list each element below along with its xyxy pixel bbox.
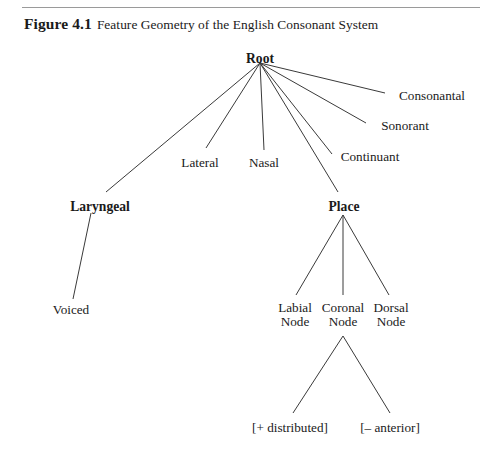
tree-node-place-line-0: Place [329, 199, 360, 214]
tree-edge-place-to-dorsal [343, 215, 389, 295]
tree-node-distributed: [+ distributed] [252, 421, 328, 435]
tree-node-labial: LabialNode [278, 301, 312, 330]
tree-edge-root-to-laryngeal [106, 63, 260, 192]
tree-edge-layer [73, 63, 390, 413]
tree-node-voiced-line-0: Voiced [53, 302, 89, 317]
figure-page: Figure 4.1Feature Geometry of the Englis… [0, 0, 490, 457]
tree-node-labial-line-0: Labial [278, 300, 312, 315]
tree-node-sonorant-line-0: Sonorant [381, 118, 429, 133]
tree-node-dorsal: DorsalNode [373, 301, 408, 330]
tree-node-place: Place [329, 200, 360, 215]
tree-node-dorsal-line-1: Node [377, 314, 406, 329]
tree-node-coronal-line-1: Node [329, 314, 358, 329]
tree-node-lateral: Lateral [181, 156, 218, 170]
tree-node-sonorant: Sonorant [381, 119, 429, 133]
tree-edge-root-to-continuant [260, 63, 332, 154]
tree-node-anterior-line-0: [– anterior] [360, 420, 420, 435]
tree-edge-coronal-to-distributed [293, 336, 343, 413]
tree-node-consonantal: Consonantal [399, 89, 465, 103]
tree-node-root: Root [246, 52, 274, 67]
tree-node-labial-line-1: Node [281, 314, 310, 329]
tree-edge-laryngeal-to-voiced [73, 213, 91, 299]
tree-edge-place-to-labial [296, 215, 343, 295]
feature-geometry-tree [0, 0, 490, 457]
tree-node-coronal: CoronalNode [322, 301, 365, 330]
tree-edge-root-to-place [260, 63, 338, 192]
tree-node-nasal: Nasal [249, 156, 279, 170]
tree-node-laryngeal: Laryngeal [70, 200, 130, 215]
tree-node-dorsal-line-0: Dorsal [373, 300, 408, 315]
tree-node-laryngeal-line-0: Laryngeal [70, 199, 130, 214]
tree-edge-root-to-consonantal [260, 63, 385, 93]
tree-edge-coronal-to-anterior [343, 336, 390, 413]
tree-node-root-line-0: Root [246, 51, 274, 66]
tree-node-continuant: Continuant [341, 150, 400, 164]
tree-node-consonantal-line-0: Consonantal [399, 88, 465, 103]
tree-node-coronal-line-0: Coronal [322, 300, 365, 315]
tree-node-lateral-line-0: Lateral [181, 155, 218, 170]
tree-edge-root-to-lateral [206, 63, 260, 148]
tree-node-voiced: Voiced [53, 303, 89, 317]
tree-edge-root-to-sonorant [260, 63, 366, 123]
tree-node-continuant-line-0: Continuant [341, 149, 400, 164]
tree-node-anterior: [– anterior] [360, 421, 420, 435]
tree-node-nasal-line-0: Nasal [249, 155, 279, 170]
tree-edge-root-to-nasal [260, 63, 264, 150]
tree-node-distributed-line-0: [+ distributed] [252, 420, 328, 435]
